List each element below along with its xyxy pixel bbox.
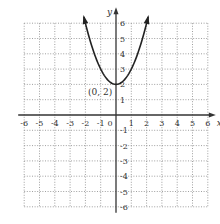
y-tick-label: 3	[120, 65, 125, 74]
x-tick-label: 0	[107, 119, 112, 128]
x-tick-label: 3	[159, 119, 164, 128]
x-tick-label: 2	[144, 119, 149, 128]
x-tick-label: 6	[205, 119, 210, 128]
arrow-left-icon	[83, 15, 88, 24]
x-tick-label: -6	[20, 119, 28, 128]
x-tick-label: 1	[129, 119, 134, 128]
y-tick-label: 4	[120, 50, 125, 59]
y-tick-label: -5	[120, 188, 128, 197]
axes	[18, 7, 216, 213]
x-tick-label: -3	[66, 119, 74, 128]
x-tick-label: -4	[51, 119, 59, 128]
y-axis-arrow-icon	[114, 7, 119, 14]
y-tick-label: 1	[120, 96, 125, 105]
y-tick-label: -6	[120, 203, 128, 212]
y-tick-label: 6	[120, 19, 125, 28]
y-tick-label: -2	[120, 142, 128, 151]
y-axis-label: y	[106, 7, 113, 17]
coordinate-plane: -6-5-4-3-2-10123456-6-5-4-3-2-1123456 x …	[0, 0, 220, 224]
x-axis-arrow-icon	[209, 113, 216, 118]
y-tick-label: 5	[120, 35, 125, 44]
y-tick-label: -1	[120, 126, 128, 135]
vertex-annotation: (0, 2)	[88, 87, 112, 97]
x-tick-label: 5	[190, 119, 195, 128]
x-tick-label: 4	[175, 119, 180, 128]
x-tick-label: -1	[97, 119, 105, 128]
y-tick-label: -4	[120, 172, 128, 181]
x-tick-label: -2	[82, 119, 90, 128]
x-tick-label: -5	[36, 119, 44, 128]
x-axis-label: x	[217, 118, 220, 128]
y-tick-label: -3	[120, 157, 128, 166]
arrow-right-icon	[144, 15, 149, 24]
